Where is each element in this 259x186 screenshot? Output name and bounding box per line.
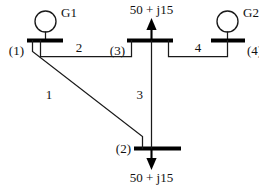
bus-4-label: (4) xyxy=(247,43,259,58)
load-label-bus-3: 50 + j15 xyxy=(130,2,173,17)
transmission-line-4-label: 4 xyxy=(195,40,202,55)
load-label-bus-2: 50 + j15 xyxy=(130,170,173,185)
generator-g1-symbol-icon xyxy=(35,11,56,32)
transmission-line-1-label: 1 xyxy=(46,87,53,102)
load-arrow-bus-3 xyxy=(146,18,156,41)
one-line-diagram: G1 G2 (1) (3) (4) (2) 2 4 3 xyxy=(0,0,259,186)
one-line-diagram-canvas: G1 G2 (1) (3) (4) (2) 2 4 3 xyxy=(0,0,259,186)
transmission-line-3-label: 3 xyxy=(137,87,144,102)
generator-g2 xyxy=(217,11,238,40)
generator-g1 xyxy=(35,11,56,40)
load-arrow-bus-3-head-icon xyxy=(146,18,156,30)
generator-g1-label: G1 xyxy=(61,5,77,20)
generator-g2-label: G2 xyxy=(243,5,259,20)
generator-g2-symbol-icon xyxy=(217,11,238,32)
load-arrow-bus-2-head-icon xyxy=(146,158,156,170)
load-arrow-bus-2 xyxy=(146,149,156,171)
bus-1-label: (1) xyxy=(9,43,24,58)
bus-2-label: (2) xyxy=(116,141,131,156)
bus-3-label: (3) xyxy=(110,43,125,58)
transmission-line-2-label: 2 xyxy=(76,40,83,55)
